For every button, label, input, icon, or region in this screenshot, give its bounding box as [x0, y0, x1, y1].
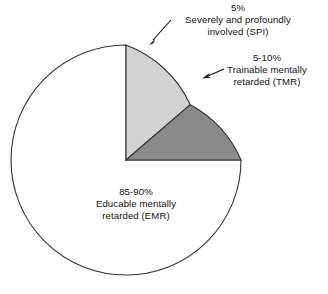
emr-name-line-2: retarded (EMR)	[76, 210, 196, 222]
spi-name-line-1: Severely and profoundly	[148, 14, 328, 26]
slice-label-spi: 5% Severely and profoundly involved (SPI…	[148, 2, 328, 37]
emr-percent-value: 85-90%	[76, 186, 196, 198]
pie-chart-figure: 5% Severely and profoundly involved (SPI…	[0, 0, 328, 294]
slice-label-emr: 85-90% Educable mentally retarded (EMR)	[76, 186, 196, 221]
pie-chart-graphic	[0, 0, 328, 294]
emr-name-line-1: Educable mentally	[76, 198, 196, 210]
tmr-name-line-1: Trainable mentally	[208, 64, 326, 76]
spi-name-line-2: involved (SPI)	[148, 26, 328, 38]
spi-percent-value: 5%	[148, 2, 328, 14]
slice-label-tmr: 5-10% Trainable mentally retarded (TMR)	[208, 52, 326, 87]
tmr-name-line-2: retarded (TMR)	[208, 76, 326, 88]
tmr-percent-value: 5-10%	[208, 52, 326, 64]
